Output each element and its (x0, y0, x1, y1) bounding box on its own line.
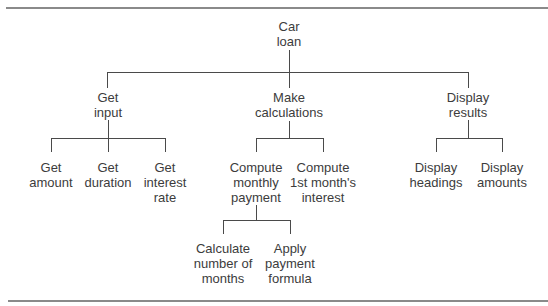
connector-compute-interest-up (323, 138, 324, 152)
node-display-headings: Display headings (410, 160, 463, 190)
node-label: Compute (230, 160, 283, 175)
connector-display-results-bar (436, 138, 503, 139)
node-label: number of (194, 256, 253, 271)
node-label: calculations (255, 105, 323, 120)
node-label: Get (85, 160, 132, 175)
node-label: Apply (265, 241, 315, 256)
node-label: loan (277, 34, 302, 49)
connector-calculate-months-up (223, 220, 224, 234)
node-label: rate (144, 190, 187, 205)
connector-apply-formula-up (290, 220, 291, 234)
connector-make-calculations-bar (256, 138, 324, 139)
connector-make-calculations-up (289, 72, 290, 88)
node-display-results: Display results (447, 90, 490, 120)
node-get-duration: Get duration (85, 160, 132, 190)
node-label: amounts (477, 175, 527, 190)
node-compute-monthly-payment: Compute monthly payment (230, 160, 283, 205)
node-label: Compute (290, 160, 356, 175)
node-label: payment (265, 256, 315, 271)
connector-display-amounts-up (502, 138, 503, 152)
node-label: input (94, 105, 122, 120)
connector-root-down (289, 50, 290, 73)
connector-get-duration-up (108, 138, 109, 152)
bottom-rule (8, 300, 548, 302)
connector-display-headings-up (436, 138, 437, 152)
connector-compute-monthly-bar (223, 220, 291, 221)
node-car-loan: Car loan (277, 19, 302, 49)
node-label: payment (230, 190, 283, 205)
node-label: Display (410, 160, 463, 175)
connector-get-interest-up (165, 138, 166, 152)
node-get-input: Get input (94, 90, 122, 120)
connector-display-results-up (468, 72, 469, 88)
node-label: Calculate (194, 241, 253, 256)
connector-level1-bar (107, 72, 469, 73)
connector-get-input-down (108, 120, 109, 139)
node-get-interest-rate: Get interest rate (144, 160, 187, 205)
node-label: 1st month's (290, 175, 356, 190)
node-apply-payment-formula: Apply payment formula (265, 241, 315, 286)
node-label: Display (477, 160, 527, 175)
connector-compute-monthly-up (256, 138, 257, 152)
node-label: months (194, 271, 253, 286)
node-label: Get (144, 160, 187, 175)
connector-display-results-down (468, 120, 469, 139)
node-label: formula (265, 271, 315, 286)
node-label: Get (29, 160, 72, 175)
connector-compute-monthly-down (256, 205, 257, 221)
node-label: monthly (230, 175, 283, 190)
node-display-amounts: Display amounts (477, 160, 527, 190)
node-compute-first-month-interest: Compute 1st month's interest (290, 160, 356, 205)
node-label: amount (29, 175, 72, 190)
connector-make-calculations-down (289, 121, 290, 139)
node-get-amount: Get amount (29, 160, 72, 190)
node-calculate-number-of-months: Calculate number of months (194, 241, 253, 286)
node-label: Make (255, 90, 323, 105)
node-label: interest (144, 175, 187, 190)
connector-get-amount-up (51, 138, 52, 152)
top-rule (6, 7, 548, 9)
node-make-calculations: Make calculations (255, 90, 323, 120)
node-label: duration (85, 175, 132, 190)
node-label: Display (447, 90, 490, 105)
node-label: interest (290, 190, 356, 205)
node-label: Car (277, 19, 302, 34)
node-label: results (447, 105, 490, 120)
node-label: headings (410, 175, 463, 190)
node-label: Get (94, 90, 122, 105)
connector-get-input-up (107, 72, 108, 88)
